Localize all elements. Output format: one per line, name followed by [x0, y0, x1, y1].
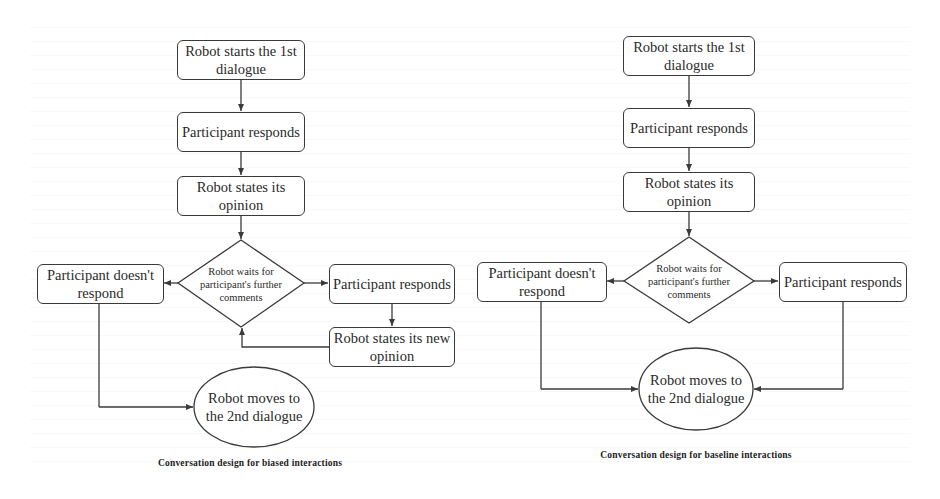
left-node-end-label: Robot moves to the 2nd dialogue [200, 385, 308, 429]
left-arrow-newopinion-loop-back [242, 328, 329, 347]
left-node-robot-new-opinion: Robot states its new opinion [329, 327, 455, 367]
right-diagram-caption: Conversation design for baseline interac… [580, 450, 812, 460]
right-node-participant-responds: Participant responds [623, 108, 755, 148]
left-node-participant-responds-further: Participant responds [329, 264, 455, 304]
left-node-robot-opinion: Robot states its opinion [177, 176, 305, 216]
left-node-start: Robot starts the 1st dialogue [177, 40, 305, 80]
left-diagram-caption: Conversation design for biased interacti… [140, 458, 360, 468]
right-node-no-response: Participant doesn't respond [477, 262, 607, 302]
right-node-start: Robot starts the 1st dialogue [623, 36, 755, 76]
left-node-no-response: Participant doesn't respond [37, 264, 164, 304]
flowchart-connectors [0, 0, 940, 499]
right-node-decision-label: Robot waits for participant's further co… [637, 259, 741, 303]
right-node-end-label: Robot moves to the 2nd dialogue [642, 367, 750, 411]
right-node-participant-responds-further: Participant responds [779, 262, 907, 302]
left-node-decision-label: Robot waits for participant's further co… [190, 262, 292, 306]
left-node-participant-responds: Participant responds [177, 112, 305, 152]
right-node-robot-opinion: Robot states its opinion [623, 172, 755, 212]
